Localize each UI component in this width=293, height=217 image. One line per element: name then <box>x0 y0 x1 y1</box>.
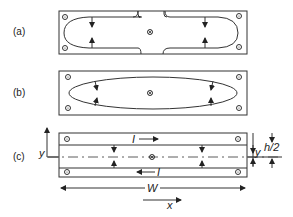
panel-a: (a) <box>13 11 247 54</box>
panel-c-label: (c) <box>13 151 25 162</box>
loop-a-left <box>64 16 142 54</box>
loop-a-right <box>163 11 238 54</box>
corner-markers-c <box>65 137 241 175</box>
loop-a-top-left-join <box>133 11 138 17</box>
center-marker-a <box>148 30 153 35</box>
current-bottom-label: I <box>157 166 160 178</box>
current-top-label: I <box>132 133 135 145</box>
arrows-b <box>95 81 213 106</box>
panel-b-label: (b) <box>13 87 25 98</box>
arrows-c <box>114 145 202 168</box>
center-marker-b <box>148 91 153 96</box>
h-half-label: h/2 <box>264 141 279 153</box>
x-label: x <box>166 199 173 211</box>
panel-a-label: (a) <box>13 26 25 37</box>
y-right-label: y <box>254 146 262 158</box>
w-label: W <box>147 182 159 194</box>
panel-b: (b) <box>13 71 247 115</box>
corner-markers-b <box>66 75 242 111</box>
diagram-canvas: (a) (b) <box>0 0 293 217</box>
panel-c: (c) I I y <box>13 128 282 211</box>
arrows-a <box>92 17 205 48</box>
y-left-label: y <box>38 147 46 159</box>
